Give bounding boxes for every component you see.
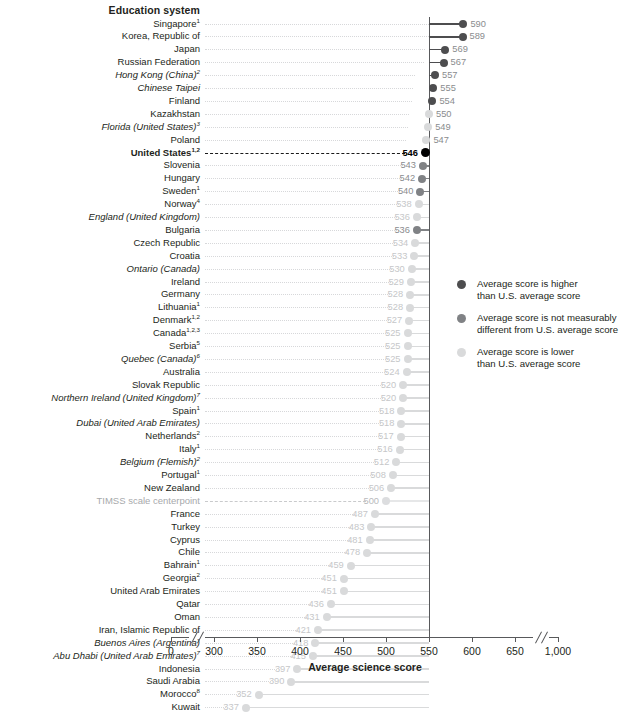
chart-row[interactable]: France487 [0,508,635,521]
chart-row[interactable]: Saudi Arabia390 [0,675,635,688]
chart-row[interactable]: Hong Kong (China)2557 [0,69,635,82]
data-point-marker[interactable] [415,200,423,208]
chart-row[interactable]: United Arab Emirates451 [0,585,635,598]
data-point-marker[interactable] [411,239,419,247]
data-point-marker[interactable] [424,123,432,131]
chart-row[interactable]: Slovak Republic520 [0,379,635,392]
chart-row[interactable]: Czech Republic534 [0,237,635,250]
chart-row[interactable]: Kuwait337 [0,701,635,714]
data-point-marker[interactable] [408,265,416,273]
chart-row[interactable]: Croatia533 [0,250,635,263]
data-point-marker[interactable] [418,175,426,183]
chart-row[interactable]: Oman431 [0,611,635,624]
data-point-marker[interactable] [397,420,405,428]
data-point-marker[interactable] [287,678,295,686]
x-tick [257,637,258,642]
data-point-marker[interactable] [340,587,348,595]
chart-row[interactable]: Dubai (United Arab Emirates)518 [0,417,635,430]
data-point-marker[interactable] [389,471,397,479]
data-point-marker[interactable] [404,329,412,337]
data-point-marker[interactable] [428,97,436,105]
data-point-marker[interactable] [425,110,433,118]
data-point-marker[interactable] [403,368,411,376]
chart-row[interactable]: Northern Ireland (United Kingdom)7520 [0,392,635,405]
chart-row[interactable]: Hungary542 [0,172,635,185]
data-point-marker[interactable] [396,446,404,454]
data-point-marker[interactable] [459,33,467,41]
data-point-marker[interactable] [255,691,263,699]
data-point-marker[interactable] [407,278,415,286]
data-point-marker[interactable] [410,252,418,260]
data-point-marker[interactable] [419,162,427,170]
chart-row[interactable]: Chile478 [0,546,635,559]
chart-row[interactable]: Poland547 [0,134,635,147]
data-point-marker[interactable] [399,394,407,402]
data-point-marker[interactable] [387,484,395,492]
data-point-marker[interactable] [413,226,421,234]
chart-row[interactable]: Ontario (Canada)530 [0,263,635,276]
chart-row[interactable]: Chinese Taipei555 [0,82,635,95]
legend-item-lower[interactable]: Average score is lowerthan U.S. average … [455,346,635,369]
chart-row[interactable]: TIMSS scale centerpoint500 [0,495,635,508]
data-point-marker[interactable] [327,600,335,608]
data-point-marker[interactable] [392,458,400,466]
data-point-marker[interactable] [340,575,348,583]
chart-row[interactable]: Finland554 [0,95,635,108]
data-point-marker[interactable] [421,148,430,157]
data-point-marker[interactable] [242,704,250,712]
data-point-marker[interactable] [422,136,430,144]
chart-row[interactable]: United States1,2546 [0,147,635,160]
data-point-marker[interactable] [440,59,448,67]
chart-row[interactable]: New Zealand506 [0,482,635,495]
data-point-marker[interactable] [404,342,412,350]
data-point-marker[interactable] [399,381,407,389]
chart-row[interactable]: Turkey483 [0,521,635,534]
chart-row[interactable]: Portugal1508 [0,469,635,482]
chart-row[interactable]: Norway4538 [0,198,635,211]
data-point-marker[interactable] [397,407,405,415]
chart-row[interactable]: Florida (United States)3549 [0,121,635,134]
chart-row[interactable]: Sweden1540 [0,185,635,198]
chart-row[interactable]: Japan569 [0,43,635,56]
data-point-marker[interactable] [323,613,331,621]
data-point-marker[interactable] [405,317,413,325]
chart-row[interactable]: Bahrain1459 [0,559,635,572]
data-point-marker[interactable] [367,523,375,531]
data-point-marker[interactable] [431,71,439,79]
chart-row[interactable]: Morocco8352 [0,688,635,701]
data-point-marker[interactable] [397,433,405,441]
row-label: Norway4 [0,198,200,211]
data-point-marker[interactable] [314,626,322,634]
data-point-marker[interactable] [363,549,371,557]
data-point-marker[interactable] [406,291,414,299]
chart-row[interactable]: Netherlands2517 [0,430,635,443]
legend-item-same[interactable]: Average score is not measurablydifferent… [455,312,635,335]
chart-row[interactable]: Italy1516 [0,443,635,456]
data-point-marker[interactable] [371,510,379,518]
data-point-marker[interactable] [406,304,414,312]
data-point-marker[interactable] [429,84,437,92]
chart-row[interactable]: Bulgaria536 [0,224,635,237]
chart-row[interactable]: Slovenia543 [0,159,635,172]
chart-row[interactable]: Georgia2451 [0,572,635,585]
chart-row[interactable]: Spain1518 [0,405,635,418]
data-point-marker[interactable] [366,536,374,544]
chart-row[interactable]: Russian Federation567 [0,56,635,69]
chart-row[interactable]: Cyprus481 [0,534,635,547]
data-point-marker[interactable] [413,213,421,221]
data-point-marker[interactable] [459,20,467,28]
row-stem [396,462,429,464]
chart-row[interactable]: Qatar436 [0,598,635,611]
data-point-marker[interactable] [404,355,412,363]
chart-row[interactable]: England (United Kingdom)536 [0,211,635,224]
data-point-marker[interactable] [382,497,390,505]
data-point-marker[interactable] [347,562,355,570]
data-point-marker[interactable] [441,46,449,54]
x-tick [515,637,516,642]
chart-row[interactable]: Kazakhstan550 [0,108,635,121]
data-point-marker[interactable] [416,188,424,196]
chart-row[interactable]: Belgium (Flemish)2512 [0,456,635,469]
chart-row[interactable]: Singapore1590 [0,18,635,31]
legend-item-higher[interactable]: Average score is higherthan U.S. average… [455,278,635,301]
chart-row[interactable]: Korea, Republic of589 [0,30,635,43]
